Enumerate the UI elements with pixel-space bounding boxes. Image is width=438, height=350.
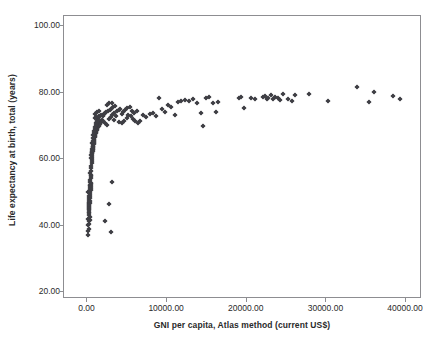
plot-area (63, 15, 421, 298)
x-axis-tick-label: 0.00 (51, 303, 121, 313)
data-point (87, 222, 91, 226)
data-point (207, 94, 211, 98)
data-point (86, 233, 90, 237)
data-point (307, 92, 311, 96)
x-axis-tick-label: 40000.00 (370, 303, 438, 313)
data-point (102, 219, 106, 223)
data-point (110, 180, 114, 184)
data-point (242, 106, 246, 110)
x-axis-tick-label: 20000.00 (211, 303, 281, 313)
data-point (290, 99, 294, 103)
y-axis-tick-label: 60.00 (16, 153, 60, 163)
y-tick-mark (59, 92, 63, 93)
data-point (113, 104, 117, 108)
data-point (367, 100, 371, 104)
data-point (398, 96, 402, 100)
x-axis-tick-label: 30000.00 (290, 303, 360, 313)
data-point (194, 101, 198, 105)
y-axis-tick-labels: 20.0040.0060.0080.00100.00 (10, 0, 60, 350)
data-point (253, 96, 257, 100)
x-tick-mark (86, 298, 87, 302)
data-point (372, 90, 376, 94)
data-point (144, 114, 148, 118)
y-tick-mark (59, 158, 63, 159)
data-point (214, 110, 218, 114)
data-point (355, 85, 359, 89)
scatter-chart: Life expectancy at birth, total (years) … (0, 0, 438, 350)
data-point (293, 92, 297, 96)
data-point (105, 122, 109, 126)
data-point (109, 230, 113, 234)
x-tick-mark (325, 298, 326, 302)
x-axis-title: GNI per capita, Atlas method (current US… (63, 320, 421, 330)
y-axis-tick-label: 80.00 (16, 87, 60, 97)
data-point (107, 202, 111, 206)
data-point (154, 114, 158, 118)
data-point (191, 96, 195, 100)
y-axis-tick-label: 100.00 (16, 20, 60, 30)
data-point (216, 100, 220, 104)
data-point (281, 92, 285, 96)
data-point (112, 118, 116, 122)
y-tick-mark (59, 25, 63, 26)
y-tick-mark (59, 225, 63, 226)
data-point (198, 110, 202, 114)
x-tick-mark (166, 298, 167, 302)
data-point (138, 118, 142, 122)
data-point (173, 112, 177, 116)
data-point (391, 94, 395, 98)
y-axis-tick-label: 20.00 (16, 286, 60, 296)
data-point (169, 105, 173, 109)
y-axis-tick-label: 40.00 (16, 220, 60, 230)
y-tick-mark (59, 291, 63, 292)
x-tick-mark (405, 298, 406, 302)
x-axis-tick-label: 10000.00 (131, 303, 201, 313)
data-point (157, 96, 161, 100)
data-point (163, 110, 167, 114)
data-point (326, 99, 330, 103)
x-tick-mark (246, 298, 247, 302)
data-point (239, 94, 243, 98)
data-point (278, 98, 282, 102)
data-point (201, 124, 205, 128)
